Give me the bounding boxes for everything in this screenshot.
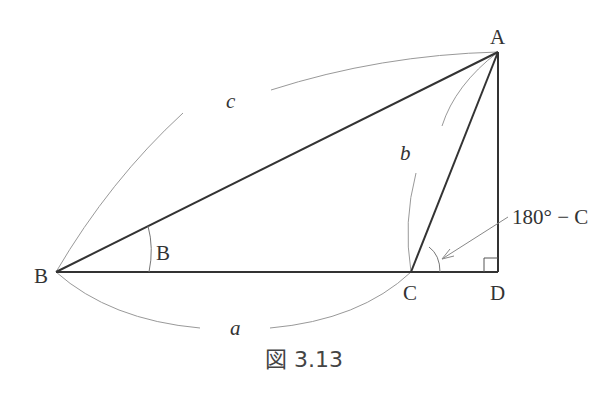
- side-b-brace-top: [442, 52, 498, 126]
- vertex-label-C: C: [403, 281, 417, 305]
- vertex-label-D: D: [490, 281, 505, 305]
- edge-BA: [56, 52, 498, 272]
- figure-canvas: A B C D c b a B 180° − C 図 3.13: [0, 0, 615, 393]
- side-label-a: a: [230, 316, 241, 340]
- side-a-brace-left: [56, 272, 200, 328]
- vertex-label-A: A: [490, 25, 506, 49]
- angle-C-exterior-arc: [429, 247, 440, 272]
- side-label-c: c: [226, 89, 236, 113]
- side-a-brace-right: [270, 272, 411, 328]
- side-label-b: b: [400, 141, 411, 165]
- triangle-figure: A B C D c b a B 180° − C 図 3.13: [0, 0, 615, 393]
- angle-label-B: B: [156, 241, 170, 265]
- side-c-brace-right: [271, 52, 498, 90]
- angle-label-exterior-C: 180° − C: [512, 205, 588, 229]
- side-b-brace-bottom: [408, 173, 416, 272]
- figure-caption: 図 3.13: [265, 347, 343, 372]
- angle-B-arc: [148, 226, 151, 272]
- right-angle-mark: [484, 258, 498, 272]
- pointer-arrow-head: [442, 249, 454, 259]
- edge-CA: [411, 52, 498, 272]
- vertex-label-B: B: [34, 264, 48, 288]
